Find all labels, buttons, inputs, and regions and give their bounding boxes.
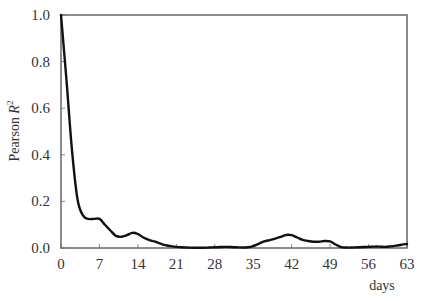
x-tick-label: 63 [400,256,415,272]
x-axis-title: days [369,278,395,293]
x-tick-label: 56 [361,256,377,272]
y-tick-label: 0.4 [31,147,50,163]
x-tick-label: 0 [57,256,65,272]
y-axis-ticks: 0.00.20.40.60.81.0 [31,7,65,256]
x-tick-label: 49 [323,256,338,272]
plot-frame [61,15,407,248]
y-axis-title: Pearson R2 [5,101,22,162]
y-tick-label: 1.0 [31,7,50,23]
x-tick-label: 21 [169,256,184,272]
line-chart: 0.00.20.40.60.81.0 071421283542495663 da… [0,0,425,301]
data-line [61,15,407,248]
y-tick-label: 0.6 [31,100,50,116]
y-tick-label: 0.0 [31,240,50,256]
x-tick-label: 28 [207,256,222,272]
x-tick-label: 14 [130,256,146,272]
x-tick-label: 35 [246,256,261,272]
y-tick-label: 0.2 [31,193,50,209]
y-tick-label: 0.8 [31,54,50,70]
x-tick-label: 42 [284,256,299,272]
x-tick-label: 7 [96,256,104,272]
